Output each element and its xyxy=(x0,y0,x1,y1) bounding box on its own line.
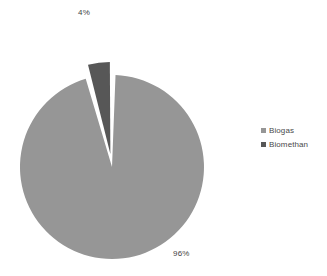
data-label-biogas: 96% xyxy=(173,249,190,258)
legend-label-biomethan: Biomethan xyxy=(269,140,308,149)
chart-legend: Biogas Biomethan xyxy=(261,126,308,149)
data-label-biomethan: 4% xyxy=(78,8,90,17)
legend-swatch-icon-biogas xyxy=(261,128,266,133)
pie-chart: 4% 96% Biogas Biomethan xyxy=(0,0,327,276)
legend-item-biomethan[interactable]: Biomethan xyxy=(261,140,308,149)
legend-label-biogas: Biogas xyxy=(269,126,294,135)
legend-item-biogas[interactable]: Biogas xyxy=(261,126,308,135)
legend-swatch-icon-biomethan xyxy=(261,142,266,147)
pie-slice-biogas[interactable] xyxy=(20,75,204,259)
